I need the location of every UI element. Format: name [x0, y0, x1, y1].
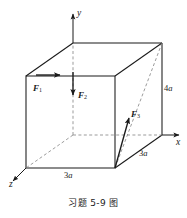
coordinate-axes	[13, 14, 179, 181]
dimension-label-depth-right: 3a	[139, 149, 148, 158]
dimension-unit-3a-right: a	[143, 148, 147, 158]
figure-container: y x z F1 F2 F3 4a 3a 3a 习题 5-9 图	[0, 0, 187, 218]
dimension-unit-3a-bottom: a	[68, 170, 72, 180]
cube-force-diagram	[0, 0, 187, 218]
axis-label-x: x	[176, 138, 180, 148]
force-label-F3-subscript: 3	[137, 113, 140, 119]
z-axis	[13, 168, 26, 181]
force-vector-F3	[115, 118, 129, 168]
force-label-F1-subscript: 1	[39, 87, 42, 93]
figure-caption: 习题 5-9 图	[0, 196, 187, 209]
force-label-F2-subscript: 2	[84, 94, 87, 100]
force-label-F3: F3	[131, 110, 140, 119]
dimension-unit-4a: a	[168, 83, 172, 93]
hidden-edge-origin-to-front-bottom-left	[26, 135, 73, 168]
axis-label-y: y	[77, 9, 81, 19]
dimension-label-width-bottom: 3a	[64, 171, 73, 180]
cube-top-left-edge	[26, 43, 73, 76]
cube-top-right-edge	[115, 43, 162, 76]
axis-label-z: z	[9, 180, 13, 190]
force-label-F1: F1	[33, 84, 42, 93]
force-label-F2: F2	[78, 91, 87, 100]
dimension-label-height-right: 4a	[164, 84, 173, 93]
